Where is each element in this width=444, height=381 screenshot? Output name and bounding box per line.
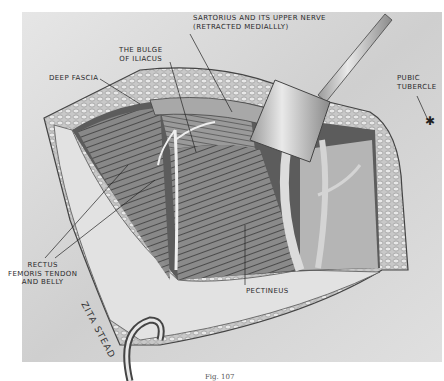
label-rectus-line2: FEMORIS TENDON xyxy=(8,270,77,279)
anatomy-illustration: ✱ xyxy=(0,0,444,381)
label-pubic-line2: TUBERCLE xyxy=(397,83,437,92)
adductor-area xyxy=(300,140,378,270)
label-deep-fascia: DEEP FASCIA xyxy=(49,74,98,83)
label-bulge-line2: OF ILIACUS xyxy=(119,55,162,64)
label-sartorius-line2: (RETRACTED MEDIALLLY) xyxy=(193,23,326,32)
label-rectus-line3: AND BELLY xyxy=(8,278,77,287)
label-sartorius: SARTORIUS AND ITS UPPER NERVE (RETRACTED… xyxy=(193,14,326,31)
label-bulge-of-iliacus: THE BULGE OF ILIACUS xyxy=(119,46,162,63)
label-bulge-line1: THE BULGE xyxy=(119,46,162,55)
label-rectus-femoris: RECTUS FEMORIS TENDON AND BELLY xyxy=(8,261,77,287)
label-pectineus: PECTINEUS xyxy=(246,287,289,296)
label-pubic-tubercle: PUBIC TUBERCLE xyxy=(397,74,437,91)
label-rectus-line1: RECTUS xyxy=(8,261,77,270)
figure-caption: Fig. 107 xyxy=(205,373,234,381)
label-pubic-line1: PUBIC xyxy=(397,74,437,83)
label-sartorius-line1: SARTORIUS AND ITS UPPER NERVE xyxy=(193,14,326,23)
